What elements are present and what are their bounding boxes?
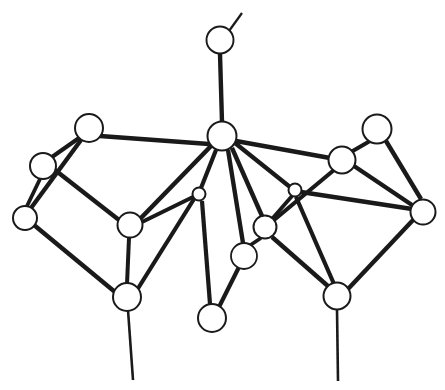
center-left-small-atom — [193, 188, 206, 201]
lower-left-atom — [113, 283, 141, 311]
right-outer-atom — [411, 200, 436, 225]
apex-center-atom — [208, 122, 237, 151]
molecule-canvas — [0, 0, 445, 390]
right-inner-atom — [329, 147, 356, 174]
terminal-top-atom — [207, 27, 234, 54]
figure-background — [0, 0, 445, 390]
center-right-small-atom — [289, 184, 302, 197]
molecular-structure-figure — [0, 0, 445, 390]
upper-left-atom — [75, 114, 103, 142]
center-front-atom — [231, 243, 257, 269]
lower-right-atom — [324, 283, 351, 310]
left-inner-atom — [118, 213, 143, 238]
center-lower-atom — [254, 216, 277, 239]
upper-right-atom — [363, 115, 392, 144]
bottom-center-atom — [198, 304, 226, 332]
left-outer-atom — [13, 206, 37, 230]
bond-a16-terminal — [337, 309, 338, 381]
left-upper-edge-atom — [30, 153, 56, 179]
